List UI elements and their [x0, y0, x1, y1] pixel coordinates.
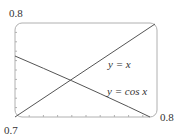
series-label-y-cos-x: y = cos x: [106, 85, 147, 97]
series-label-cos-prefix: y = cos: [106, 85, 142, 97]
chart: 0.8 0.7 0.8 y = x y = cos x: [0, 0, 183, 140]
origin-label: 0.7: [4, 124, 18, 136]
line-y-equals-x: [15, 24, 155, 117]
y-top-label: 0.8: [9, 7, 23, 19]
series-label-cos-var: x: [141, 85, 147, 97]
series-label-y-x: y = x: [107, 58, 131, 70]
x-right-label: 0.8: [160, 111, 174, 123]
